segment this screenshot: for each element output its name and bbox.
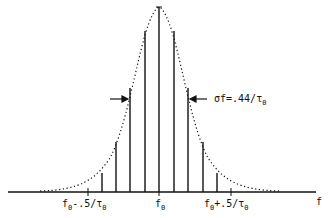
spectrum-diagram: σf=.44/τ0 f f0-.5/τ0 f0 f0+.5/τ0 (0, 0, 328, 218)
right-tick-label: f0+.5/τ0 (204, 198, 249, 212)
axis-label-f: f (316, 196, 322, 207)
left-tick-label: f0-.5/τ0 (62, 198, 107, 212)
sigma-annotation: σf=.44/τ0 (214, 93, 266, 107)
center-tick-label: f0 (155, 198, 165, 212)
